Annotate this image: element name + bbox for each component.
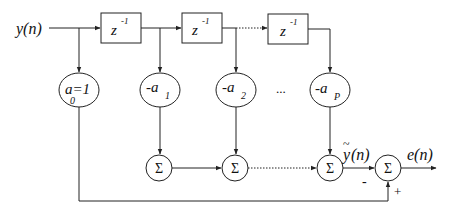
delay-3-exp: -1 (290, 17, 298, 27)
coefficient-ap: -a P (310, 73, 350, 107)
coef-1-sub: 1 (165, 90, 170, 101)
coef-p-main: -a (315, 80, 328, 96)
sigma-error: Σ (384, 161, 392, 176)
coefficient-a2: -a 2 (216, 73, 256, 107)
ellipsis: ... (276, 81, 286, 96)
sigma-p: Σ (326, 161, 334, 176)
summer-error: Σ (375, 155, 401, 181)
coefficient-a1: -a 1 (140, 73, 180, 107)
delay-3-base: z (279, 23, 286, 39)
coefficient-a0: a=1 0 (59, 73, 99, 107)
sigma-1: Σ (155, 161, 163, 176)
coef-2-main: -a (222, 79, 235, 95)
sigma-2: Σ (231, 161, 239, 176)
prediction-label: y ~ (n) (341, 137, 370, 164)
prediction-tilde: ~ (343, 137, 350, 151)
delay-1-base: z (110, 22, 117, 38)
delay-block-1: z -1 (101, 13, 141, 43)
summer-p: Σ (317, 155, 343, 181)
delay-block-3: z -1 (268, 14, 308, 44)
coef-p-sub: P (333, 91, 340, 102)
input-label: y(n) (14, 20, 42, 38)
summer-2: Σ (222, 155, 248, 181)
coef-1-main: -a (146, 79, 159, 95)
plus-sign: + (394, 184, 401, 199)
minus-sign: - (362, 174, 367, 189)
prediction-error-filter-diagram: y(n) z -1 z -1 z -1 a=1 0 -a 1 -a 2 ... (0, 0, 452, 217)
summer-1: Σ (146, 155, 172, 181)
delay-1-exp: -1 (121, 16, 129, 26)
prediction-arg: (n) (351, 146, 370, 164)
coef-0-main: a=1 (65, 81, 90, 97)
coef-0-sub: 0 (70, 95, 75, 106)
output-label: e(n) (407, 146, 433, 164)
coef-2-sub: 2 (241, 90, 246, 101)
delay-2-exp: -1 (202, 16, 210, 26)
delay-2-base: z (191, 22, 198, 38)
delay-block-2: z -1 (182, 13, 222, 43)
